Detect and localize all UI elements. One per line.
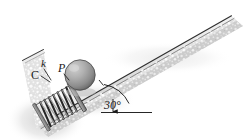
- label-incline-angle: 30°: [104, 99, 121, 111]
- figure-canvas: k P C 30°: [0, 0, 247, 140]
- label-spring-stiffness: k: [41, 58, 46, 69]
- ball-P: [65, 60, 96, 97]
- label-ball: P: [58, 62, 65, 74]
- label-collar: C: [31, 69, 39, 81]
